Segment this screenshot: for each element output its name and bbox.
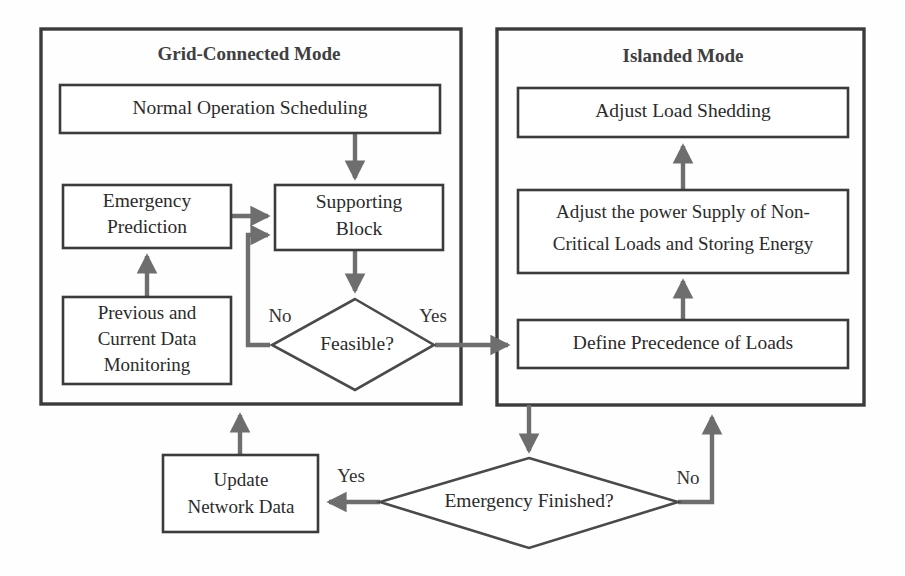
edge-label-feasible-no: No [268, 305, 291, 326]
flowchart-canvas: Normal Operation Scheduling Emergency Pr… [0, 0, 905, 576]
edge-finished-no-loop [678, 417, 712, 502]
node-adjust-power-supply: Adjust the power Supply of Non- Critical… [518, 190, 848, 273]
edge-label-finished-no: No [676, 467, 699, 488]
node-data-monitoring-label-line3: Monitoring [104, 354, 191, 375]
node-define-precedence: Define Precedence of Loads [518, 320, 848, 368]
node-supporting-block-label-line2: Block [336, 218, 383, 239]
node-adjust-load-shedding: Adjust Load Shedding [518, 88, 848, 137]
node-data-monitoring: Previous and Current Data Monitoring [63, 297, 231, 384]
node-update-network-data-label-line2: Network Data [187, 496, 295, 517]
node-emergency-prediction: Emergency Prediction [63, 185, 231, 248]
node-emergency-prediction-label-line2: Prediction [107, 216, 187, 237]
node-adjust-power-supply-label-line1: Adjust the power Supply of Non- [556, 201, 810, 222]
edge-feasible-no-loop [248, 235, 270, 345]
node-update-network-data: Update Network Data [163, 455, 318, 532]
node-normal-operation-scheduling: Normal Operation Scheduling [60, 85, 440, 133]
node-update-network-data-label-line1: Update [214, 469, 269, 490]
node-update-network-data-box [163, 455, 318, 532]
panel-grid-connected-title: Grid-Connected Mode [157, 43, 340, 64]
node-define-precedence-label: Define Precedence of Loads [573, 332, 793, 353]
panel-islanded-title: Islanded Mode [623, 45, 744, 66]
node-emergency-prediction-label-line1: Emergency [103, 190, 192, 211]
node-feasible-decision-label: Feasible? [320, 333, 394, 354]
node-emergency-finished-decision-label: Emergency Finished? [444, 490, 613, 511]
node-adjust-load-shedding-label: Adjust Load Shedding [595, 100, 771, 121]
node-supporting-block-label-line1: Supporting [316, 191, 403, 212]
node-feasible-decision: Feasible? [272, 299, 434, 390]
flowchart-svg: Normal Operation Scheduling Emergency Pr… [0, 0, 905, 576]
node-supporting-block: Supporting Block [275, 185, 443, 250]
node-data-monitoring-label-line1: Previous and [98, 302, 197, 323]
edge-label-finished-yes: Yes [337, 465, 365, 486]
node-data-monitoring-label-line2: Current Data [98, 328, 197, 349]
node-emergency-finished-decision: Emergency Finished? [380, 458, 678, 548]
node-normal-operation-scheduling-label: Normal Operation Scheduling [132, 97, 367, 118]
node-adjust-power-supply-label-line2: Critical Loads and Storing Energy [553, 233, 814, 254]
edge-label-feasible-yes: Yes [419, 305, 447, 326]
